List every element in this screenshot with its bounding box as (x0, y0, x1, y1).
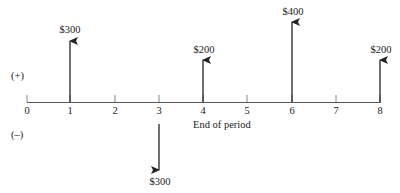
negative-sign-label: (–) (11, 129, 23, 141)
amount-label-period-8: $200 (371, 44, 392, 56)
tick-label-3: 3 (156, 105, 161, 117)
tick-label-1: 1 (67, 105, 72, 117)
tick-label-5: 5 (244, 105, 249, 117)
tick-label-8: 8 (377, 105, 382, 117)
tick-label-2: 2 (112, 105, 117, 117)
tick-label-6: 6 (289, 105, 294, 117)
amount-label-period-1: $300 (60, 24, 81, 36)
amount-label-period-4: $200 (194, 44, 215, 56)
cash-flow-diagram: (+) (–) 0 1 2 3 4 5 6 7 8 End of period … (0, 0, 400, 193)
tick-label-4: 4 (200, 105, 205, 117)
amount-label-period-6: $400 (283, 6, 304, 18)
tick-label-7: 7 (333, 105, 338, 117)
tick-label-0: 0 (24, 105, 29, 117)
amount-label-period-3: $300 (150, 176, 171, 188)
axis-title: End of period (193, 119, 251, 131)
positive-sign-label: (+) (11, 70, 24, 82)
